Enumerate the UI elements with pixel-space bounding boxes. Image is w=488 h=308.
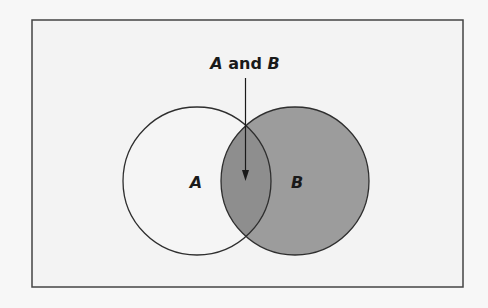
set-a-label: A	[188, 173, 202, 192]
venn-diagram: A and B A B	[0, 0, 488, 308]
intersection-label: A and B	[208, 54, 279, 73]
set-b-label: B	[291, 173, 303, 192]
